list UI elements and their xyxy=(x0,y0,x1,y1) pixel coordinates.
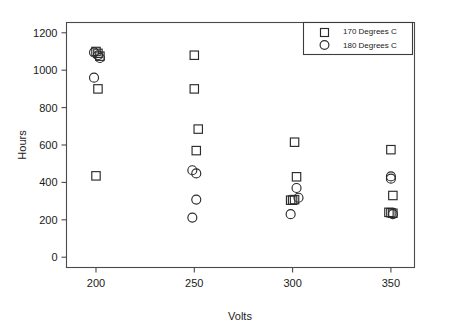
y-tick-label-400: 400 xyxy=(39,176,57,188)
y-tick-label-800: 800 xyxy=(39,102,57,114)
y-tick-label-1000: 1000 xyxy=(33,64,57,76)
legend-label-170: 170 Degrees C xyxy=(343,27,397,36)
scatter-plot-figure: 020040060080010001200 200250300350 Hours… xyxy=(0,0,450,331)
x-tick-label-200: 200 xyxy=(87,277,105,289)
x-tick-label-300: 300 xyxy=(283,277,301,289)
chart-legend: 170 Degrees C 180 Degrees C xyxy=(304,23,413,55)
y-tick-label-0: 0 xyxy=(51,251,57,263)
y-axis-label: Hours xyxy=(16,130,28,160)
chart-canvas: 020040060080010001200 200250300350 Hours… xyxy=(0,0,450,331)
x-tick-label-250: 250 xyxy=(185,277,203,289)
x-axis-label: Volts xyxy=(228,310,252,322)
y-tick-label-200: 200 xyxy=(39,214,57,226)
y-tick-label-600: 600 xyxy=(39,139,57,151)
legend-label-180: 180 Degrees C xyxy=(343,41,397,50)
x-tick-label-350: 350 xyxy=(382,277,400,289)
y-tick-label-1200: 1200 xyxy=(33,27,57,39)
